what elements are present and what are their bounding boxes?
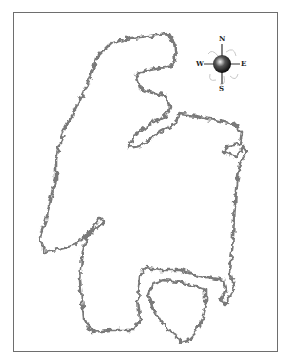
compass-east-label: E [241,59,246,68]
compass-south-label: S [219,84,224,93]
compass-west-label: W [196,59,204,68]
compass-rose: N S E W [196,36,248,92]
compass-north-label: N [219,34,225,43]
inner-lake-loop-outline [148,280,206,342]
